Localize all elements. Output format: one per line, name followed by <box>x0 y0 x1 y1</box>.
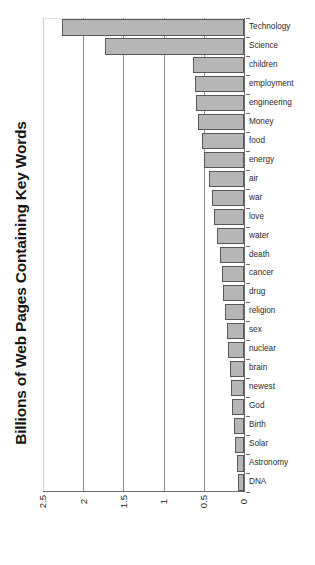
bar <box>220 247 244 263</box>
bar-row <box>43 37 244 56</box>
bar <box>237 455 244 471</box>
bar-row <box>43 94 244 113</box>
value-tick-labels: 2.521.510.50 <box>0 492 260 552</box>
category-label: DNA <box>249 473 266 492</box>
value-tick-label: 2.5 <box>23 496 63 507</box>
bar <box>234 418 244 434</box>
bar <box>231 380 244 396</box>
value-tick-label: 0.5 <box>184 496 224 507</box>
bar-row <box>43 56 244 75</box>
category-label: God <box>249 397 264 416</box>
category-label: employment <box>249 75 294 94</box>
category-label: cancer <box>249 264 274 283</box>
bar-row <box>43 151 244 170</box>
bar <box>238 474 244 490</box>
category-label: drug <box>249 283 265 302</box>
bar <box>202 133 244 149</box>
bar <box>230 361 244 377</box>
bar-row <box>43 227 244 246</box>
category-label: food <box>249 132 265 151</box>
bar-row <box>43 18 244 37</box>
category-label: war <box>249 189 262 208</box>
value-tick-label: 1 <box>144 496 184 507</box>
bar-row <box>43 359 244 378</box>
bar <box>105 38 244 54</box>
category-label: engineering <box>249 94 292 113</box>
category-label: Solar <box>249 435 268 454</box>
bar-row <box>43 75 244 94</box>
bar-row <box>43 435 244 454</box>
bar <box>204 152 244 168</box>
category-label: Astronomy <box>249 454 288 473</box>
bar-row <box>43 321 244 340</box>
bar <box>198 114 244 130</box>
category-label: water <box>249 227 269 246</box>
bar <box>62 19 244 35</box>
bar <box>214 209 244 225</box>
bar <box>193 57 244 73</box>
category-label: Science <box>249 37 278 56</box>
value-tick-label: 0 <box>224 496 264 507</box>
gridline-0 <box>244 18 245 492</box>
bar <box>209 171 244 187</box>
plot-area <box>43 18 244 492</box>
category-label: love <box>249 208 264 227</box>
bar <box>223 285 244 301</box>
bar-row <box>43 397 244 416</box>
category-label: religion <box>249 302 275 321</box>
bar-series <box>43 18 244 492</box>
category-label: children <box>249 56 278 75</box>
bar <box>235 437 244 453</box>
category-label: brain <box>249 359 267 378</box>
bar-row <box>43 340 244 359</box>
bar-row <box>43 208 244 227</box>
bar-row <box>43 170 244 189</box>
category-tick-labels: TechnologySciencechildrenemploymentengin… <box>246 18 315 492</box>
bar <box>196 95 244 111</box>
category-label: Technology <box>249 18 290 37</box>
bar-chart-figure: Billions of Web Pages Containing Key Wor… <box>0 0 315 565</box>
bar-row <box>43 189 244 208</box>
bar-row <box>43 283 244 302</box>
category-label: sex <box>249 321 262 340</box>
category-label: Birth <box>249 416 266 435</box>
bar-row <box>43 113 244 132</box>
category-label: nuclear <box>249 340 276 359</box>
bar-row <box>43 454 244 473</box>
bar-row <box>43 246 244 265</box>
category-label: Money <box>249 113 274 132</box>
bar <box>212 190 244 206</box>
category-label: death <box>249 246 270 265</box>
value-tick-label: 2 <box>63 496 103 507</box>
bar <box>227 323 244 339</box>
category-label: energy <box>249 151 274 170</box>
bar-row <box>43 132 244 151</box>
category-label: air <box>249 170 258 189</box>
value-axis-title-container: Billions of Web Pages Containing Key Wor… <box>0 0 42 565</box>
bar <box>225 304 244 320</box>
bar-row <box>43 264 244 283</box>
bar-row <box>43 302 244 321</box>
bar <box>217 228 244 244</box>
bar-row <box>43 416 244 435</box>
value-axis-title: Billions of Web Pages Containing Key Wor… <box>12 121 30 444</box>
bar <box>232 399 244 415</box>
bar <box>222 266 245 282</box>
bar <box>228 342 244 358</box>
category-label: newest <box>249 378 275 397</box>
value-tick-label: 1.5 <box>103 496 143 507</box>
bar-row <box>43 378 244 397</box>
bar <box>195 76 244 92</box>
bar-row <box>43 473 244 492</box>
